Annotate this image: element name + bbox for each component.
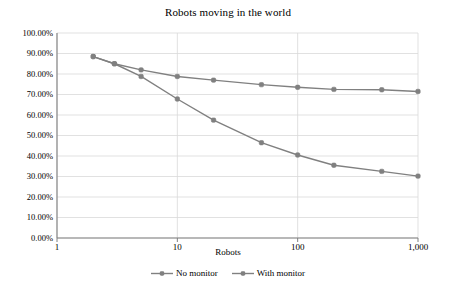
data-point-marker <box>175 97 179 101</box>
y-tick-label: 40.00% <box>3 152 53 161</box>
y-tick-label: 0.00% <box>3 234 53 243</box>
chart-legend: No monitorWith monitor <box>0 268 456 278</box>
legend-marker-icon <box>151 269 173 278</box>
legend-item-1[interactable]: No monitor <box>151 268 218 278</box>
y-tick-label: 20.00% <box>3 193 53 202</box>
data-point-marker <box>259 82 263 86</box>
axis-lines <box>57 33 418 242</box>
legend-item-2[interactable]: With monitor <box>232 268 305 278</box>
data-point-marker <box>380 169 384 173</box>
y-tick-label: 90.00% <box>3 49 53 58</box>
data-point-marker <box>259 140 263 144</box>
series-layer <box>91 54 420 178</box>
data-point-marker <box>112 62 116 66</box>
data-point-marker <box>211 78 215 82</box>
data-point-marker <box>416 89 420 93</box>
legend-label: With monitor <box>257 268 305 278</box>
y-tick-label: 100.00% <box>3 29 53 38</box>
gridlines <box>57 33 418 238</box>
y-tick-label: 30.00% <box>3 172 53 181</box>
data-point-marker <box>380 88 384 92</box>
data-point-marker <box>416 174 420 178</box>
y-tick-label: 80.00% <box>3 70 53 79</box>
data-point-marker <box>332 87 336 91</box>
data-point-marker <box>139 68 143 72</box>
y-tick-label: 60.00% <box>3 111 53 120</box>
data-point-marker <box>295 153 299 157</box>
x-axis-title: Robots <box>0 247 456 257</box>
legend-label: No monitor <box>176 268 218 278</box>
legend-marker-icon <box>232 269 254 278</box>
y-tick-label: 50.00% <box>3 131 53 140</box>
data-point-marker <box>91 54 95 58</box>
data-point-marker <box>211 118 215 122</box>
data-point-marker <box>332 163 336 167</box>
data-point-marker <box>175 74 179 78</box>
data-point-marker <box>139 74 143 78</box>
chart-container: Robots moving in the world 0.00%10.00%20… <box>0 0 456 293</box>
y-tick-label: 10.00% <box>3 213 53 222</box>
y-tick-label: 70.00% <box>3 90 53 99</box>
data-point-marker <box>295 85 299 89</box>
